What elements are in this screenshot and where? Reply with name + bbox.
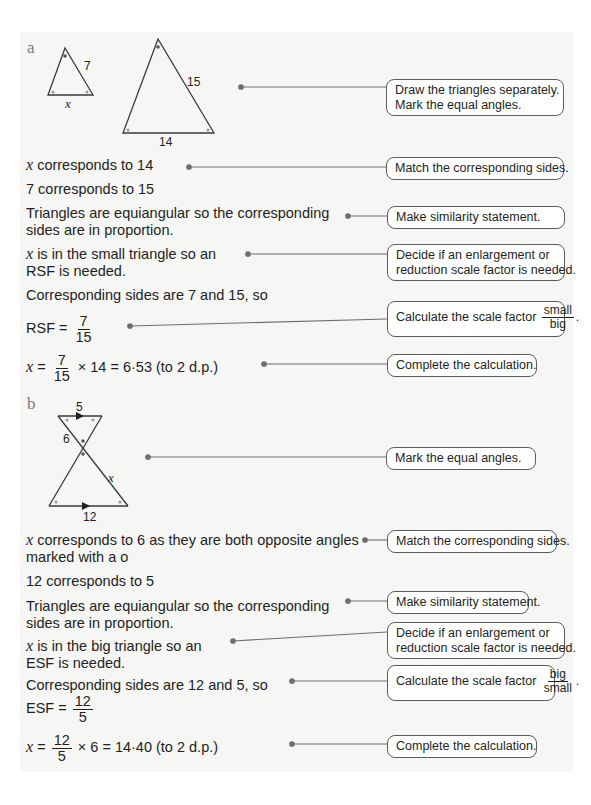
hourglass-right-label: x xyxy=(108,470,114,486)
step-a2: 7 corresponds to 15 xyxy=(26,181,154,198)
note-a-complete: Complete the calculation. xyxy=(387,354,537,377)
note-a-draw-triangles: Draw the triangles separately.Mark the e… xyxy=(386,79,564,116)
step-b1: x corresponds to 6 as they are both oppo… xyxy=(26,531,359,566)
note-b-calc-sf: Calculate the scale factor bigsmall. xyxy=(387,665,555,701)
part-a-label: a xyxy=(27,38,35,58)
step-b5: Corresponding sides are 12 and 5, so xyxy=(26,677,268,694)
step-a6-rsf: RSF = 715 xyxy=(26,314,96,345)
step-b4: x is in the big triangle so anESF is nee… xyxy=(26,637,202,672)
note-b-mark-angles: Mark the equal angles. xyxy=(386,447,536,470)
step-b7-calc: x = 125 × 6 = 14·40 (to 2 d.p.) xyxy=(26,733,218,764)
hourglass-bottom-label: 12 xyxy=(83,510,96,524)
step-a3: Triangles are equiangular so the corresp… xyxy=(26,205,329,239)
note-a-similarity: Make similarity statement. xyxy=(387,206,565,229)
step-b3: Triangles are equiangular so the corresp… xyxy=(26,598,329,632)
small-triangle-base-label: x xyxy=(65,96,71,112)
large-triangle-base-label: 14 xyxy=(159,135,172,149)
note-a-calc-sf: Calculate the scale factor smallbig. xyxy=(387,301,565,337)
step-b2: 12 corresponds to 5 xyxy=(26,573,154,590)
note-b-complete: Complete the calculation. xyxy=(387,735,537,758)
note-b-decide-sf: Decide if an enlargement orreduction sca… xyxy=(387,622,565,659)
hourglass-top-label: 5 xyxy=(76,400,83,414)
part-b-label: b xyxy=(27,394,36,414)
step-a5: Corresponding sides are 7 and 15, so xyxy=(26,287,268,304)
hourglass-left-label: 6 xyxy=(63,432,70,446)
step-a4: x is in the small triangle so anRSF is n… xyxy=(26,245,216,280)
small-triangle-side-label: 7 xyxy=(84,59,91,73)
step-b6-esf: ESF = 125 xyxy=(26,694,95,725)
step-a7-calc: x = 715 × 14 = 6·53 (to 2 d.p.) xyxy=(26,353,218,384)
large-triangle-side-label: 15 xyxy=(187,75,200,89)
step-a1: x corresponds to 14 xyxy=(26,156,153,174)
note-a-match-sides: Match the corresponding sides. xyxy=(386,157,564,180)
note-b-match-sides: Match the corresponding sides. xyxy=(387,530,557,553)
note-a-decide-sf: Decide if an enlargement orreduction sca… xyxy=(387,244,565,281)
note-b-similarity: Make similarity statement. xyxy=(387,591,529,614)
